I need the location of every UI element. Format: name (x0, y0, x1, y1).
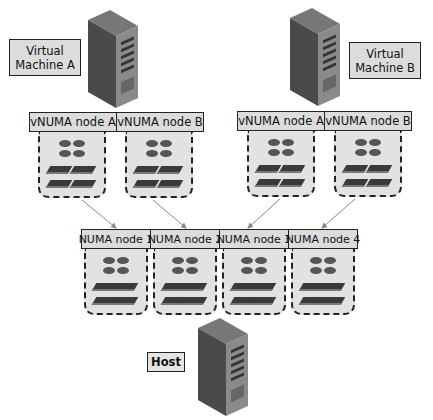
arrow-vm-a-node-b-to-numa-2 (153, 200, 186, 228)
arrow-vm-a-node-a-to-numa-1 (82, 200, 116, 228)
mapping-arrows (0, 0, 433, 420)
arrow-vm-b-node-a-to-numa-3 (248, 199, 280, 228)
arrow-vm-b-node-b-to-numa-4 (322, 199, 355, 228)
